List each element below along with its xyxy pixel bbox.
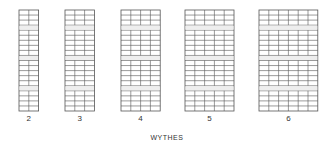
wall-section-3-wythes: 3 [65, 10, 94, 123]
header-course [186, 56, 234, 60]
wall-label: 4 [138, 114, 143, 123]
header-course [66, 56, 94, 60]
wall-label: 6 [286, 114, 291, 123]
wall-section-4-wythes: 4 [121, 10, 160, 123]
header-course [260, 26, 318, 30]
header-course [66, 26, 94, 30]
header-course [260, 56, 318, 60]
header-course [122, 26, 160, 30]
wall-label: 3 [77, 114, 82, 123]
wythe-diagram: 23456 WYTHES [0, 0, 335, 147]
header-course [122, 56, 160, 60]
wall-section-2-wythes: 2 [19, 10, 39, 123]
header-course [260, 86, 318, 90]
header-course [66, 86, 94, 90]
header-course [20, 86, 39, 90]
header-course [186, 86, 234, 90]
axis-title: WYTHES [151, 134, 184, 141]
wall-section-5-wythes: 5 [185, 10, 234, 123]
header-course [20, 56, 39, 60]
wall-label: 5 [207, 114, 212, 123]
header-course [20, 26, 39, 30]
header-course [186, 26, 234, 30]
header-course [122, 86, 160, 90]
walls-group: 23456 [19, 10, 318, 123]
wall-label: 2 [27, 114, 32, 123]
wall-section-6-wythes: 6 [259, 10, 318, 123]
